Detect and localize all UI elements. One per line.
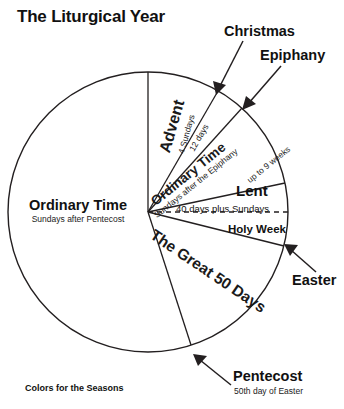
- label-epiphany: Epiphany: [260, 47, 325, 63]
- label-holy-week: Holy Week: [228, 223, 286, 235]
- footnote-colors-for-the-seasons: Colors for the Seasons: [25, 383, 124, 393]
- label-pentecost-sub: 50th day of Easter: [234, 386, 303, 396]
- label-pentecost: Pentecost: [233, 368, 302, 384]
- label-christmas: Christmas: [224, 23, 295, 39]
- liturgical-year-diagram: The Liturgical Year Christmas Epiphany E…: [0, 0, 344, 409]
- epiphany-leader-arrow: [242, 66, 281, 110]
- label-ordinary-time-after-pentecost-main: Ordinary Time: [29, 197, 127, 213]
- page-title: The Liturgical Year: [17, 7, 165, 27]
- christmas-leader-arrow: [213, 41, 243, 95]
- label-easter: Easter: [292, 272, 336, 288]
- label-lent: Lent: [236, 182, 268, 199]
- pentecost-leader-arrow: [193, 354, 231, 385]
- label-ordinary-time-after-pentecost: Ordinary Time Sundays after Pentecost: [12, 198, 144, 224]
- easter-leader-arrow: [284, 244, 316, 272]
- label-lent-sub: 40 days plus Sundays: [176, 203, 269, 214]
- label-ordinary-time-after-pentecost-sub: Sundays after Pentecost: [12, 215, 144, 224]
